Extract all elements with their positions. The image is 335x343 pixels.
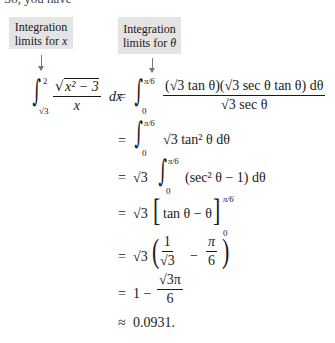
approx-sign: ≈	[118, 315, 126, 331]
upper-limit: 2	[43, 76, 47, 86]
x-limits-label: Integration limits for x	[9, 17, 73, 49]
intro-text: So, you have	[4, 0, 72, 7]
equals-sign: =	[118, 249, 126, 265]
pi-fraction: √3π 6	[157, 272, 183, 307]
integral-sign: ∫	[33, 76, 42, 106]
lower-limit: √3	[39, 106, 48, 116]
label-line-2: limits for θ	[122, 36, 177, 50]
theta-limits-label: Integration limits for θ	[118, 17, 181, 54]
down-arrow-icon	[41, 55, 42, 70]
equals-sign: =	[118, 89, 126, 105]
label-line-1: Integration	[13, 20, 69, 34]
equals-sign: =	[118, 286, 126, 302]
substituted-fraction: (√3 tan θ)(√3 sec θ tan θ) dθ √3 sec θ	[163, 78, 325, 113]
down-arrow-icon	[152, 58, 153, 72]
final-value: 0.0931.	[133, 315, 175, 331]
equals-sign: =	[118, 206, 126, 222]
integrand-fraction: √x² − 3 x	[53, 78, 101, 114]
label-line-1: Integration	[122, 22, 177, 36]
equals-sign: =	[118, 170, 126, 186]
equals-sign: =	[118, 133, 126, 149]
label-line-2: limits for x	[13, 34, 69, 48]
